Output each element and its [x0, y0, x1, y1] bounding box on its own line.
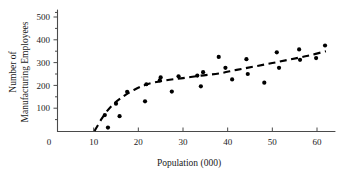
data-point [201, 70, 205, 74]
data-point [246, 72, 250, 76]
y-tick-label: 100 [37, 103, 51, 113]
y-tick-labels: 100200300400500 [37, 12, 51, 113]
data-point [117, 114, 121, 118]
data-point [262, 81, 266, 85]
trend-line-path [95, 51, 326, 131]
data-point [230, 77, 234, 81]
x-tick-labels: 0102030405060 [47, 137, 322, 147]
data-point [297, 47, 301, 51]
data-point [223, 66, 227, 70]
data-point [159, 75, 163, 79]
x-tick-label: 10 [89, 137, 99, 147]
x-tick-label: 40 [223, 137, 233, 147]
trend-line [95, 51, 326, 131]
x-tick-label: 20 [134, 137, 144, 147]
x-axis [58, 128, 335, 132]
y-tick-label: 400 [37, 35, 51, 45]
x-tick-label: 50 [268, 137, 278, 147]
data-point [275, 50, 279, 54]
data-point [195, 74, 199, 78]
chart-canvas: 100200300400500 0102030405060 Population… [0, 0, 342, 171]
data-points [103, 43, 327, 129]
data-point [176, 74, 180, 78]
x-tick-label: 30 [179, 137, 189, 147]
x-axis-title: Population (000) [157, 158, 221, 169]
y-tick-label: 300 [37, 58, 51, 68]
data-point [323, 43, 327, 47]
x-tick-label: 60 [313, 137, 323, 147]
y-axis-title-line1: Number of [8, 50, 18, 92]
data-point [143, 99, 147, 103]
data-point [114, 102, 118, 106]
data-point [199, 84, 203, 88]
data-point [106, 125, 110, 129]
y-tick-label: 200 [37, 81, 51, 91]
y-axis-title-line2: Manufacturing Employees [20, 21, 30, 122]
data-point [217, 55, 221, 59]
y-axis [54, 10, 58, 131]
data-point [298, 58, 302, 62]
scatter-plot-figure: 100200300400500 0102030405060 Population… [0, 0, 342, 171]
data-point [314, 56, 318, 60]
x-tick-label: 0 [47, 137, 52, 147]
data-point [144, 82, 148, 86]
data-point [103, 113, 107, 117]
data-point [244, 57, 248, 61]
data-point [277, 66, 281, 70]
data-point [170, 89, 174, 93]
y-tick-label: 500 [37, 12, 51, 22]
data-point [125, 90, 129, 94]
